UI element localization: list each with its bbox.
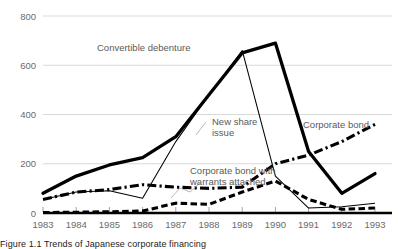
x-tick-1986: 1986 (132, 219, 153, 230)
new-share-issue-label-line2: issue (212, 127, 234, 138)
x-tick-1992: 1992 (331, 219, 352, 230)
x-tick-1993: 1993 (364, 219, 385, 230)
x-tick-1991: 1991 (298, 219, 319, 230)
x-axis-labels: 1983 1984 1985 1986 1987 1988 1989 1990 … (32, 219, 385, 230)
y-tick-400: 400 (20, 109, 36, 120)
gridlines (43, 16, 392, 164)
y-tick-600: 600 (20, 60, 36, 71)
x-tick-1985: 1985 (99, 219, 120, 230)
x-tick-1989: 1989 (232, 219, 253, 230)
y-axis-labels: 800 600 400 200 0 (20, 11, 36, 219)
y-tick-200: 200 (20, 158, 36, 169)
warrants-label-line2: warrants attached (189, 176, 266, 187)
new-share-issue-label: New share (212, 116, 257, 127)
x-tick-1987: 1987 (165, 219, 186, 230)
x-tick-1984: 1984 (66, 219, 87, 230)
y-tick-800: 800 (20, 11, 36, 22)
x-tick-1988: 1988 (198, 219, 219, 230)
convertible-debenture-label: Convertible debenture (97, 42, 190, 53)
series-line-corporate-bond (43, 124, 375, 199)
x-tick-1983: 1983 (32, 219, 53, 230)
corporate-bond-label: Corporate bond (303, 119, 369, 130)
warrants-label-line1: Corporate bond with (190, 165, 276, 176)
new-share-issue-leader (196, 122, 206, 135)
y-tick-0: 0 (31, 208, 36, 219)
x-tick-1990: 1990 (265, 219, 286, 230)
figure-caption: Figure 1.1 Trends of Japanese corporate … (0, 239, 206, 249)
